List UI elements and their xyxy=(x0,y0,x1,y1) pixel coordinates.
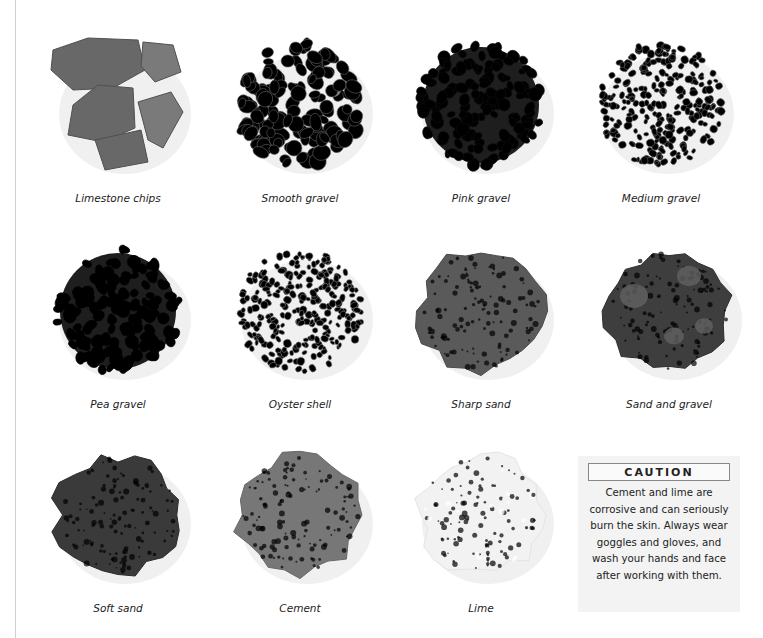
material-soft-sand: Soft sand xyxy=(33,440,203,590)
pink-gravel-image xyxy=(406,30,556,180)
sharp-sand-image xyxy=(406,236,556,386)
material-sand-and-gravel: Sand and gravel xyxy=(584,236,754,386)
material-label: Smooth gravel xyxy=(215,192,385,204)
material-label: Pea gravel xyxy=(33,398,203,410)
material-label: Cement xyxy=(215,602,385,614)
medium-gravel-image xyxy=(586,30,736,180)
material-pink-gravel: Pink gravel xyxy=(396,30,566,180)
material-label: Medium gravel xyxy=(576,192,746,204)
material-pea-gravel: Pea gravel xyxy=(33,236,203,386)
pea-gravel-image xyxy=(43,236,193,386)
page-edge-divider xyxy=(15,0,16,638)
material-smooth-gravel: Smooth gravel xyxy=(215,30,385,180)
soft-sand-image xyxy=(43,440,193,590)
material-lime: Lime xyxy=(396,440,566,590)
lime-image xyxy=(406,440,556,590)
smooth-gravel-image xyxy=(225,30,375,180)
material-limestone-chips: Limestone chips xyxy=(33,30,203,180)
sand-and-gravel-image xyxy=(594,236,744,386)
material-label: Sharp sand xyxy=(396,398,566,410)
material-label: Pink gravel xyxy=(396,192,566,204)
material-medium-gravel: Medium gravel xyxy=(576,30,746,180)
cement-image xyxy=(225,440,375,590)
caution-text: Cement and lime are corrosive and can se… xyxy=(582,485,736,584)
oyster-shell-image xyxy=(225,236,375,386)
limestone-chips-image xyxy=(43,30,193,180)
material-sharp-sand: Sharp sand xyxy=(396,236,566,386)
material-cement: Cement xyxy=(215,440,385,590)
caution-title: CAUTION xyxy=(588,463,730,481)
material-label: Lime xyxy=(396,602,566,614)
material-label: Oyster shell xyxy=(215,398,385,410)
material-label: Sand and gravel xyxy=(584,398,754,410)
material-label: Soft sand xyxy=(33,602,203,614)
material-oyster-shell: Oyster shell xyxy=(215,236,385,386)
caution-box: CAUTION Cement and lime are corrosive an… xyxy=(578,456,740,612)
material-label: Limestone chips xyxy=(33,192,203,204)
